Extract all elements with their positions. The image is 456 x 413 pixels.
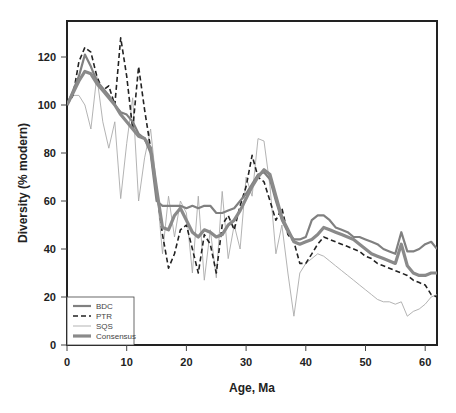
y-tick-label: 20 bbox=[44, 291, 56, 303]
series-bdc-line bbox=[67, 55, 437, 254]
x-tick-label: 0 bbox=[64, 356, 70, 368]
y-tick-label: 80 bbox=[44, 147, 56, 159]
legend-label-ptr: PTR bbox=[96, 312, 112, 321]
x-tick-label: 50 bbox=[359, 356, 371, 368]
y-tick-label: 0 bbox=[50, 339, 56, 351]
x-tick-label: 10 bbox=[121, 356, 133, 368]
x-axis: 0102030405060 bbox=[64, 345, 431, 368]
y-tick-label: 120 bbox=[38, 51, 56, 63]
diversity-chart: 020406080100120 0102030405060 Age, Ma Di… bbox=[0, 0, 456, 413]
legend-label-sqs: SQS bbox=[96, 322, 113, 331]
y-axis: 020406080100120 bbox=[38, 51, 67, 351]
x-tick-label: 20 bbox=[180, 356, 192, 368]
legend: BDCPTRSQSConsensus bbox=[67, 297, 136, 345]
x-tick-label: 60 bbox=[419, 356, 431, 368]
y-tick-label: 60 bbox=[44, 195, 56, 207]
legend-label-consensus: Consensus bbox=[96, 332, 136, 341]
series-consensus-line bbox=[67, 71, 437, 275]
legend-label-bdc: BDC bbox=[96, 302, 113, 311]
x-tick-label: 30 bbox=[240, 356, 252, 368]
series-group bbox=[67, 38, 437, 316]
x-tick-label: 40 bbox=[300, 356, 312, 368]
x-axis-label: Age, Ma bbox=[229, 381, 275, 395]
y-tick-label: 40 bbox=[44, 243, 56, 255]
y-axis-label: Diversity (% modern) bbox=[16, 123, 30, 243]
y-tick-label: 100 bbox=[38, 99, 56, 111]
